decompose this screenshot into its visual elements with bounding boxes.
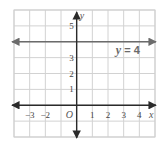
x-tick-label: −2 <box>41 110 51 120</box>
equation-label: y = 4 <box>114 43 141 57</box>
x-tick-label: 3 <box>121 110 126 120</box>
coordinate-plane: x y O y = 4 −3−212341235 <box>0 0 162 146</box>
origin-label: O <box>66 109 73 120</box>
grid <box>14 10 155 137</box>
labels: x y O y = 4 −3−212341235 <box>25 10 154 120</box>
y-tick-label: 2 <box>69 69 74 79</box>
y-tick-label: 5 <box>69 21 74 31</box>
equation-rest: = 4 <box>121 44 141 56</box>
x-tick-label: −3 <box>25 110 35 120</box>
x-tick-label: 4 <box>137 110 142 120</box>
x-tick-label: 2 <box>106 110 111 120</box>
y-tick-label: 1 <box>69 84 74 94</box>
x-axis-label: x <box>148 109 154 120</box>
y-tick-label: 3 <box>69 53 74 63</box>
y-axis-label: y <box>79 10 85 21</box>
x-tick-label: 1 <box>90 110 95 120</box>
